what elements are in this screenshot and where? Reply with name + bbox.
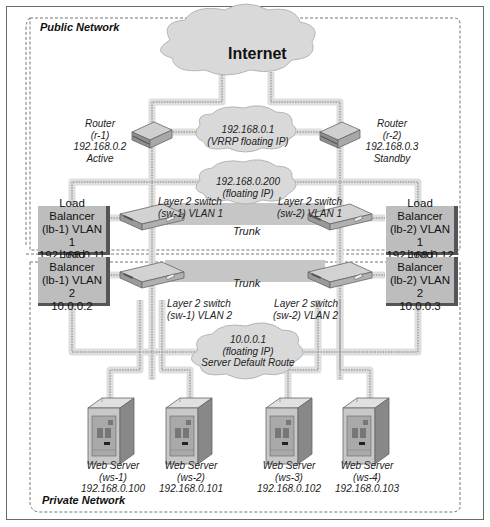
switch-sw2-vlan2-label: Layer 2 switch (sw-2) VLAN 2 (273, 298, 338, 321)
switch-sw1-vlan1-label: Layer 2 switch (sw-1) VLAN 1 (158, 196, 223, 219)
web-server-ws3-icon (266, 398, 312, 464)
router-r1-label: Router (r-1) 192.168.0.2 Active (70, 118, 130, 164)
private-network-label: Private Network (42, 494, 125, 506)
web-server-ws4-icon (343, 398, 389, 464)
web-server-ws2-label: Web Server (ws-2) 192.168.0.101 (156, 460, 226, 495)
web-server-ws2-icon (166, 398, 212, 464)
switch-sw1-vlan2-label: Layer 2 switch (sw-1) VLAN 2 (167, 298, 232, 321)
switch-sw2-vlan1-label: Layer 2 switch (sw-2) VLAN 1 (277, 196, 342, 219)
router-r1-icon (132, 122, 172, 148)
vrrp-floating-ip-label: 192.168.0.1 (VRRP floating IP) (206, 124, 290, 147)
server-route-floating-ip-label: 10.0.0.1 (floating IP) Server Default Ro… (200, 334, 296, 369)
trunk-top-label: Trunk (233, 225, 260, 237)
router-r2-icon (320, 122, 360, 148)
internet-label: Internet (228, 45, 287, 63)
web-server-ws1-icon (88, 398, 134, 464)
load-balancer-lb2-vlan2: Load Balancer (lb-2) VLAN 2 10.0.0.3 (386, 257, 458, 306)
load-balancer-lb1-vlan2: Load Balancer (lb-1) VLAN 2 10.0.0.2 (38, 257, 110, 306)
web-server-ws4-label: Web Server (ws-4) 192.168.0.103 (332, 460, 402, 495)
internet-cloud-icon (160, 4, 315, 75)
trunk-bottom-label: Trunk (233, 277, 260, 289)
web-server-ws3-label: Web Server (ws-3) 192.168.0.102 (254, 460, 324, 495)
router-r2-label: Router (r-2) 192.168.0.3 Standby (362, 118, 422, 164)
web-server-ws1-label: Web Server (ws-1) 192.168.0.100 (78, 460, 148, 495)
public-network-label: Public Network (40, 21, 119, 33)
